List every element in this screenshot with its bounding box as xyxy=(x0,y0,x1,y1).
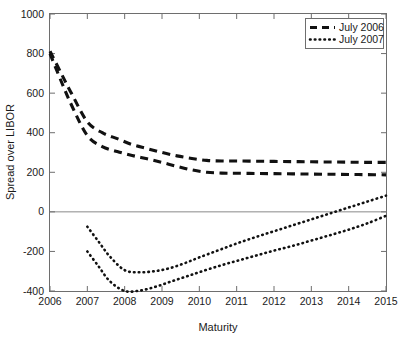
x-tick-label: 2007 xyxy=(76,295,100,307)
y-tick-label: 200 xyxy=(26,166,44,178)
y-tick-label: 600 xyxy=(26,87,44,99)
series-line xyxy=(50,51,386,162)
chart-figure: 2006200720082009201020112012201320142015… xyxy=(0,0,415,339)
x-tick-label: 2013 xyxy=(300,295,324,307)
x-tick-label: 2008 xyxy=(113,295,137,307)
x-tick-label: 2012 xyxy=(262,295,286,307)
x-axis-title: Maturity xyxy=(198,321,238,333)
x-tick-label: 2015 xyxy=(374,295,398,307)
series-line xyxy=(50,54,386,175)
y-tick-label: 800 xyxy=(26,47,44,59)
y-tick-label: -400 xyxy=(23,285,44,297)
x-tick-label: 2009 xyxy=(150,295,174,307)
y-axis-title: Spread over LIBOR xyxy=(4,104,16,200)
legend-label-july-2007: July 2007 xyxy=(339,33,384,45)
x-tick-label: 2014 xyxy=(337,295,361,307)
x-axis-tick-labels: 2006200720082009201020112012201320142015 xyxy=(38,295,398,307)
x-tick-label: 2010 xyxy=(188,295,212,307)
y-tick-label: 400 xyxy=(26,126,44,138)
y-tick-label: 0 xyxy=(38,205,44,217)
legend-label-july-2006: July 2006 xyxy=(339,21,384,33)
x-tick-label: 2006 xyxy=(38,295,62,307)
data-series-group xyxy=(50,51,386,292)
x-tick-label: 2011 xyxy=(225,295,248,307)
chart-canvas: 2006200720082009201020112012201320142015… xyxy=(0,0,415,339)
series-line xyxy=(87,216,386,292)
y-tick-label: -200 xyxy=(23,245,44,257)
y-tick-label: 1000 xyxy=(21,8,45,20)
chart-legend[interactable]: July 2006 July 2007 xyxy=(306,19,385,49)
y-axis-tick-labels: -400-20002004006008001000 xyxy=(21,8,45,297)
